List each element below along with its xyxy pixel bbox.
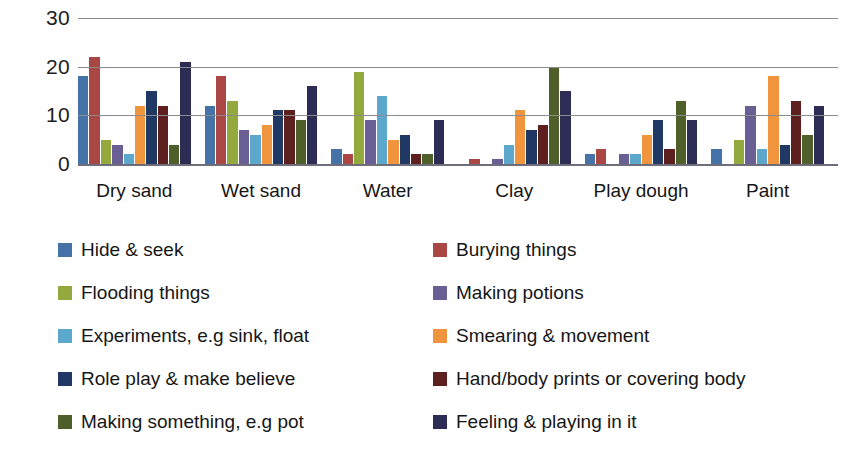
bar[interactable] [227, 101, 237, 164]
bar[interactable] [630, 154, 640, 164]
bar[interactable] [273, 110, 283, 164]
bar[interactable] [239, 130, 249, 164]
legend-label: Smearing & movement [456, 325, 649, 347]
legend-label: Hide & seek [81, 239, 183, 261]
bar[interactable] [619, 154, 629, 164]
legend-item[interactable]: Flooding things [58, 271, 433, 314]
bar[interactable] [802, 135, 812, 164]
bar[interactable] [101, 140, 111, 164]
legend-label: Burying things [456, 239, 576, 261]
bar[interactable] [146, 91, 156, 164]
chart-legend: Hide & seekBurying thingsFlooding things… [58, 228, 848, 456]
legend-swatch-icon [58, 329, 72, 343]
legend-swatch-icon [58, 286, 72, 300]
gridline [78, 67, 838, 68]
legend-item[interactable]: Role play & make believe [58, 357, 433, 400]
category-label: Clay [458, 178, 585, 206]
legend-swatch-icon [433, 243, 447, 257]
bar[interactable] [422, 154, 432, 164]
bar[interactable] [653, 120, 663, 164]
bar[interactable] [515, 110, 525, 164]
bar[interactable] [180, 62, 190, 164]
bar[interactable] [377, 96, 387, 164]
axis-baseline [78, 164, 838, 166]
bar-chart: 3020100 Dry sandWet sandWaterClayPlay do… [0, 0, 851, 468]
bar[interactable] [676, 101, 686, 164]
bar[interactable] [250, 135, 260, 164]
legend-swatch-icon [433, 415, 447, 429]
legend-item[interactable]: Hand/body prints or covering body [433, 357, 848, 400]
y-axis: 3020100 [8, 18, 70, 178]
legend-item[interactable]: Feeling & playing in it [433, 400, 848, 443]
y-axis-tick-label: 20 [8, 56, 70, 77]
category-label: Wet sand [205, 178, 332, 206]
bar[interactable] [307, 86, 317, 164]
plot-wrapper: 3020100 [0, 18, 851, 178]
legend-item[interactable]: Hide & seek [58, 228, 433, 271]
legend-item[interactable]: Burying things [433, 228, 848, 271]
legend-swatch-icon [433, 372, 447, 386]
bar[interactable] [262, 125, 272, 164]
gridline [78, 115, 838, 116]
y-axis-tick-label: 30 [8, 7, 70, 28]
bar[interactable] [780, 145, 790, 164]
bar[interactable] [284, 110, 294, 164]
bar-group [78, 18, 205, 164]
legend-item[interactable]: Smearing & movement [433, 314, 848, 357]
bar[interactable] [400, 135, 410, 164]
gridline [78, 18, 838, 19]
y-axis-tick-label: 0 [8, 153, 70, 174]
bar[interactable] [526, 130, 536, 164]
bar-group [711, 18, 838, 164]
category-label: Play dough [585, 178, 712, 206]
legend-swatch-icon [58, 415, 72, 429]
y-axis-tick-label: 10 [8, 104, 70, 125]
bar[interactable] [560, 91, 570, 164]
bar[interactable] [434, 120, 444, 164]
bar-group [205, 18, 332, 164]
bar[interactable] [365, 120, 375, 164]
bar[interactable] [388, 140, 398, 164]
bar[interactable] [687, 120, 697, 164]
bar-groups [78, 18, 838, 164]
bar[interactable] [642, 135, 652, 164]
bar[interactable] [711, 149, 721, 164]
bar[interactable] [89, 57, 99, 164]
bar[interactable] [791, 101, 801, 164]
legend-label: Experiments, e.g sink, float [81, 325, 309, 347]
bar[interactable] [768, 76, 778, 164]
legend-item[interactable]: Making something, e.g pot [58, 400, 433, 443]
legend-swatch-icon [58, 372, 72, 386]
bar-group [585, 18, 712, 164]
legend-item[interactable]: Making potions [433, 271, 848, 314]
bar[interactable] [78, 76, 88, 164]
bar[interactable] [354, 72, 364, 164]
bar[interactable] [296, 120, 306, 164]
legend-label: Making something, e.g pot [81, 411, 304, 433]
bar[interactable] [331, 149, 341, 164]
bar[interactable] [124, 154, 134, 164]
bar[interactable] [757, 149, 767, 164]
bar[interactable] [734, 140, 744, 164]
category-label: Water [331, 178, 458, 206]
bar[interactable] [169, 145, 179, 164]
legend-label: Role play & make believe [81, 368, 295, 390]
bar[interactable] [343, 154, 353, 164]
legend-label: Hand/body prints or covering body [456, 368, 745, 390]
bar[interactable] [596, 149, 606, 164]
bar[interactable] [216, 76, 226, 164]
bar-group [458, 18, 585, 164]
category-axis-labels: Dry sandWet sandWaterClayPlay doughPaint [78, 178, 838, 206]
legend-label: Feeling & playing in it [456, 411, 637, 433]
bar[interactable] [664, 149, 674, 164]
bar[interactable] [112, 145, 122, 164]
category-label: Dry sand [78, 178, 205, 206]
bar[interactable] [411, 154, 421, 164]
bar[interactable] [504, 145, 514, 164]
legend-label: Flooding things [81, 282, 210, 304]
legend-item[interactable]: Experiments, e.g sink, float [58, 314, 433, 357]
bar-group [331, 18, 458, 164]
bar[interactable] [538, 125, 548, 164]
bar[interactable] [585, 154, 595, 164]
plot-area [78, 18, 838, 178]
